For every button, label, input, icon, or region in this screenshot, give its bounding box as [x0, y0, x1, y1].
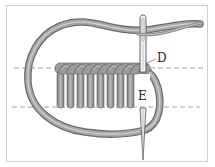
- label-e: E: [138, 90, 147, 102]
- stitch-illustration: [0, 0, 215, 167]
- twisted-edge: [55, 63, 150, 74]
- label-d-leader: [147, 59, 156, 63]
- label-d: D: [157, 52, 167, 64]
- vertical-stitches: [57, 72, 134, 108]
